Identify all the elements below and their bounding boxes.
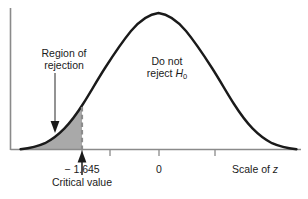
x-axis-title-text: Scale of [232, 163, 273, 175]
hypothesis-subscript: 0 [183, 72, 187, 81]
critical-value-caption: Critical value [40, 176, 124, 188]
x-tick-label-zero: 0 [145, 163, 173, 175]
normal-curve [21, 13, 297, 149]
do-not-reject-line1: Do not [152, 55, 183, 67]
x-axis-title-symbol: z [273, 163, 278, 175]
arrow-down-icon [51, 73, 60, 133]
region-of-rejection-line2: rejection [44, 59, 84, 71]
critical-value-number: − 1.645 [46, 163, 118, 175]
annotation-region-of-rejection: Region of rejection [28, 47, 100, 72]
hypothesis-symbol: H [175, 67, 183, 79]
annotation-do-not-reject: Do not reject H0 [130, 55, 204, 80]
normal-distribution-figure: Region of rejection Do not reject H0 − 1… [0, 0, 308, 199]
x-axis-title: Scale of z [232, 163, 304, 175]
do-not-reject-line2: reject [147, 67, 173, 79]
region-of-rejection-line1: Region of [42, 47, 87, 59]
rejection-region-shading [21, 107, 83, 150]
x-axis-ticks [82, 150, 215, 157]
